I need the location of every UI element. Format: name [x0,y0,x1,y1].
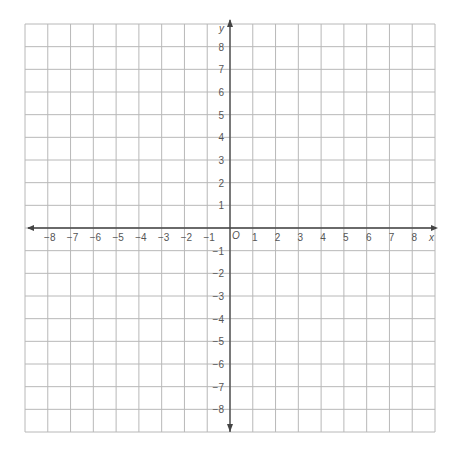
x-tick-label: 6 [366,232,372,243]
x-tick-label: −7 [67,232,79,243]
y-tick-label: −3 [213,291,225,302]
x-tick-label: 1 [252,232,258,243]
y-tick-label: −5 [213,336,225,347]
y-axis-down-arrow-icon [227,424,233,432]
y-axis-label: y [218,23,225,34]
y-tick-label: −8 [213,404,225,415]
y-tick-label: 4 [218,132,224,143]
axes [27,19,438,432]
x-tick-labels: −8−7−6−5−4−3−2−112345678 [44,232,417,243]
y-tick-label: −6 [213,359,225,370]
x-tick-label: −8 [44,232,56,243]
x-tick-label: 7 [389,232,395,243]
y-tick-label: 5 [218,110,224,121]
x-axis-label: x [428,232,435,243]
x-tick-label: 3 [298,232,304,243]
x-tick-label: 4 [320,232,326,243]
x-tick-label: 5 [343,232,349,243]
y-tick-label: 6 [218,87,224,98]
y-tick-label: 1 [218,200,224,211]
x-tick-label: −5 [112,232,124,243]
x-tick-label: −2 [181,232,193,243]
x-tick-label: −6 [90,232,102,243]
y-tick-label: 8 [218,42,224,53]
x-tick-label: 8 [411,232,417,243]
y-tick-label: 3 [218,155,224,166]
y-tick-label: −2 [213,268,225,279]
x-tick-label: −4 [135,232,147,243]
x-tick-label: 2 [275,232,281,243]
y-tick-label: 7 [218,64,224,75]
origin-label: O [232,230,240,241]
y-tick-label: −4 [213,314,225,325]
y-tick-label: 2 [218,178,224,189]
coordinate-plane: −8−7−6−5−4−3−2−112345678 −8−7−6−5−4−3−2−… [0,0,455,461]
x-axis-left-arrow-icon [27,225,34,231]
x-tick-label: −3 [158,232,170,243]
y-axis-up-arrow-icon [227,19,233,27]
y-tick-label: −7 [213,382,225,393]
x-tick-label: −1 [204,232,216,243]
y-tick-label: −1 [213,246,225,257]
